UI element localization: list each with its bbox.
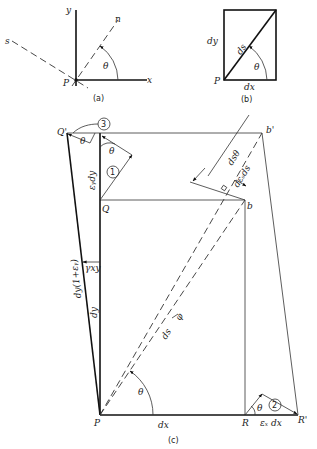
label-R: R — [241, 418, 249, 428]
caption-a: (a) — [93, 94, 104, 103]
label-Q-prime: Q' — [57, 127, 67, 137]
label-ds-c: ds — [159, 327, 173, 341]
label-P-c: P — [93, 418, 101, 428]
label-P: P — [62, 78, 70, 88]
label-d-theta: dsθ — [225, 148, 242, 167]
label-P-b: P — [213, 76, 221, 86]
label-dy-one-plus-eps: dy(1+εᵧ) — [69, 258, 83, 299]
label-theta-right: θ — [257, 403, 263, 413]
label-n: n — [115, 14, 121, 24]
vector-2b — [262, 394, 297, 414]
label-dy: dy — [207, 36, 219, 46]
label-dy-c: dy — [89, 306, 99, 318]
diagonal-ds-original — [100, 200, 245, 415]
leader-3 — [73, 124, 98, 133]
circle-3-label: 3 — [101, 120, 106, 129]
label-theta-b: θ — [254, 62, 260, 72]
label-theta: θ — [103, 61, 109, 71]
label-eps-y-dy: εᵧdy — [87, 170, 97, 190]
right-angle-mark — [221, 185, 227, 191]
label-b: b — [247, 201, 253, 211]
point-P — [74, 78, 78, 82]
diagonal-ds — [224, 10, 276, 80]
caption-b: (b) — [241, 95, 252, 104]
label-theta-bottom: θ — [138, 387, 144, 397]
dtheta-arrow — [193, 168, 205, 181]
label-x: x — [147, 75, 152, 85]
part-b-element: dy dx ds P θ (b) — [207, 10, 276, 104]
vector-3 — [68, 134, 90, 143]
label-y: y — [65, 5, 72, 15]
vector-3b — [90, 133, 95, 143]
label-theta-top: θ — [109, 146, 115, 156]
caption-c: (c) — [168, 436, 179, 445]
label-s: s — [5, 36, 10, 46]
part-a-axes: y x n s P θ (a) — [5, 5, 152, 103]
label-dx-c: dx — [158, 420, 169, 430]
label-phi: φ — [173, 311, 185, 322]
n-axis — [72, 20, 118, 86]
circle-2-label: 2 — [272, 401, 277, 410]
label-Q: Q — [102, 204, 110, 214]
label-ds-eps: dεₛds — [231, 163, 252, 189]
vector-1b — [102, 136, 132, 155]
strain-geometry-diagram: y x n s P θ (a) dy dx ds P θ (b) — [0, 0, 317, 449]
label-R-prime: R' — [297, 415, 307, 425]
part-c-deformation: Q' b' Q b P R R' 3 1 2 θ θ θ θ εᵧdy εₓ d… — [57, 115, 307, 445]
label-theta-top-left: θ — [80, 136, 86, 146]
label-b-prime: b' — [266, 125, 274, 135]
label-gamma-xy: γxy — [85, 263, 101, 273]
label-dx: dx — [244, 82, 255, 92]
circle-1-label: 1 — [110, 168, 115, 177]
label-ds: ds — [234, 42, 248, 57]
edge-b'R' — [262, 133, 298, 415]
label-eps-x-dx: εₓ dx — [260, 418, 282, 428]
